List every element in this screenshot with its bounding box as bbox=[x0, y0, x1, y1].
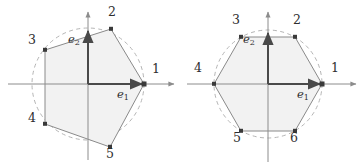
pentagon-shape bbox=[45, 29, 144, 147]
right-hexagon-figure: 1 2 3 4 5 6 e1 e2 bbox=[181, 0, 362, 168]
vertex-dot bbox=[239, 35, 243, 39]
vertex-dot bbox=[109, 27, 113, 31]
figure-canvas: 1 2 3 4 5 e1 e2 bbox=[0, 0, 363, 168]
vertex-dot bbox=[293, 129, 297, 133]
vertex-dot bbox=[43, 48, 47, 52]
vertex-dot bbox=[212, 82, 216, 86]
vertex-dot bbox=[293, 35, 297, 39]
vertex-dot bbox=[320, 82, 325, 87]
left-figure-svg bbox=[0, 0, 181, 168]
left-pentagon-figure: 1 2 3 4 5 e1 e2 bbox=[0, 0, 181, 168]
vertex-dot bbox=[43, 122, 47, 126]
right-figure-svg bbox=[181, 0, 363, 168]
vertex-dot bbox=[239, 129, 243, 133]
vertex-dot bbox=[108, 145, 112, 149]
vertex-dot bbox=[142, 82, 147, 87]
